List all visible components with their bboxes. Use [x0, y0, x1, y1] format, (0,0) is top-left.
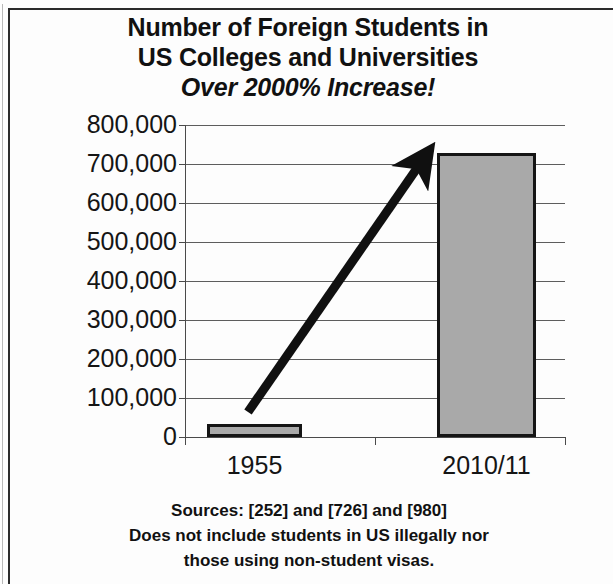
y-axis-tick-label: 200,000	[7, 346, 177, 371]
y-axis-tick-label: 800,000	[7, 112, 177, 137]
y-axis-tick-label: 500,000	[7, 229, 177, 254]
y-axis-tick-label: 100,000	[7, 385, 177, 410]
chart-footnote: Sources: [252] and [726] and [980] Does …	[12, 498, 606, 573]
frame-top-border	[8, 8, 613, 10]
y-axis-tick-label: 400,000	[7, 268, 177, 293]
chart-title-line-2: US Colleges and Universities	[10, 42, 606, 72]
frame-outer-edge	[2, 4, 3, 584]
footnote-sources: Sources: [252] and [726] and [980]	[12, 498, 606, 523]
chart-title-line-3: Over 2000% Increase!	[10, 72, 606, 103]
x-axis-tick	[565, 437, 566, 445]
growth-arrow-icon	[185, 125, 565, 437]
x-axis-tick	[185, 437, 186, 445]
chart-image: Number of Foreign Students in US College…	[0, 0, 613, 584]
y-axis-tick-label: 0	[7, 424, 177, 449]
x-axis-tick	[375, 437, 376, 445]
footnote-disclaimer-line-1: Does not include students in US illegall…	[12, 523, 606, 548]
y-axis-tick-label: 600,000	[7, 190, 177, 215]
x-axis-label-1955: 1955	[165, 451, 345, 480]
y-axis-tick-label: 300,000	[7, 307, 177, 332]
y-axis-tick-labels: 0100,000200,000300,000400,000500,000600,…	[5, 125, 177, 438]
y-axis-tick-label: 700,000	[7, 151, 177, 176]
chart-title-line-1: Number of Foreign Students in	[10, 12, 606, 42]
x-axis-label-2010-11: 2010/11	[397, 451, 577, 480]
chart-title: Number of Foreign Students in US College…	[10, 12, 606, 103]
footnote-disclaimer-line-2: those using non-student visas.	[12, 548, 606, 573]
